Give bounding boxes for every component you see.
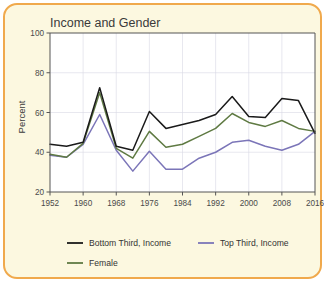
x-tick-label: 1992 bbox=[207, 199, 226, 208]
x-tick-label: 1960 bbox=[74, 199, 93, 208]
legend-label: Bottom Third, Income bbox=[89, 238, 171, 248]
legend-label: Top Third, Income bbox=[220, 238, 289, 248]
income-and-gender-line-chart: Income and Gender Percent 10080604020 19… bbox=[5, 5, 324, 281]
y-tick-label: 100 bbox=[30, 29, 44, 38]
y-tick-label: 20 bbox=[35, 188, 45, 197]
legend-item[interactable]: Top Third, Income bbox=[198, 238, 289, 248]
chart-title: Income and Gender bbox=[50, 16, 161, 30]
legend-item[interactable]: Female bbox=[67, 258, 118, 268]
y-axis-label: Percent bbox=[16, 100, 27, 133]
x-tick-label: 1968 bbox=[107, 199, 126, 208]
y-tick-label: 40 bbox=[35, 148, 45, 157]
legend-item[interactable]: Bottom Third, Income bbox=[67, 238, 171, 248]
chart-legend: Bottom Third, IncomeTop Third, IncomeFem… bbox=[67, 238, 289, 268]
chart-card: Income and Gender Percent 10080604020 19… bbox=[3, 3, 322, 279]
x-tick-label: 2008 bbox=[273, 199, 292, 208]
x-tick-label: 1976 bbox=[140, 199, 159, 208]
x-axis-tick-labels: 195219601968197619841992200020082016 bbox=[41, 199, 324, 208]
x-tick-label: 1984 bbox=[173, 199, 192, 208]
y-axis-tick-labels: 10080604020 bbox=[30, 29, 44, 197]
chart-container: Income and Gender Percent 10080604020 19… bbox=[5, 5, 324, 281]
y-tick-label: 80 bbox=[35, 69, 45, 78]
legend-label: Female bbox=[89, 258, 118, 268]
x-tick-label: 1952 bbox=[41, 199, 60, 208]
x-tick-label: 2000 bbox=[240, 199, 259, 208]
x-tick-label: 2016 bbox=[306, 199, 324, 208]
y-tick-label: 60 bbox=[35, 109, 45, 118]
